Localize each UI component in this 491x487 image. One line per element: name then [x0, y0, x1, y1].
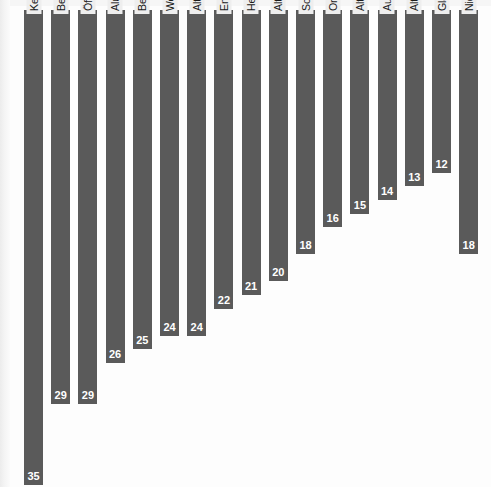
- chart-page: 35Keine Wegwerfflaschen oder Getränkedos…: [0, 0, 491, 487]
- bar-category-label: Energiesparende Haushaltsgeräte anschaff…: [216, 0, 231, 14]
- bar-category-label: Alte Arzneimittel in der Apotheke abgebe…: [189, 0, 204, 14]
- bar-category-label: Öffentliche Verkehrsmittel dem Auto vorz…: [80, 0, 95, 14]
- bar-value-label: 14: [378, 185, 397, 197]
- bar-group: 18Sonderabfälle (z. B. Altöl) zur Deponi…: [296, 0, 315, 487]
- bar-category-label: Altpapier in die Sammlung geben: [407, 0, 422, 14]
- bar: [24, 10, 43, 485]
- bar-group: 22Energiesparende Haushaltsgeräte anscha…: [214, 0, 233, 487]
- bar-group: 24Weniger Strom verbrauchen: [160, 0, 179, 487]
- bar-value-label: 21: [242, 280, 261, 292]
- bar-chart-plot-area: 35Keine Wegwerfflaschen oder Getränkedos…: [0, 0, 491, 487]
- bar: [350, 10, 369, 214]
- bar: [187, 10, 206, 336]
- bar-value-label: 24: [160, 321, 179, 333]
- bar-category-label: Alte Kleider in die Sammlung geben: [352, 0, 367, 14]
- bar-value-label: 18: [459, 239, 478, 251]
- bar-value-label: 15: [350, 199, 369, 211]
- bar: [378, 10, 397, 200]
- bar-value-label: 35: [24, 470, 43, 482]
- bar-category-label: Auto mit Katalysator fahren: [380, 0, 395, 14]
- bar-group: 12Glas zum Container bringen: [432, 0, 451, 487]
- bar-value-label: 12: [432, 158, 451, 170]
- bar-value-label: 24: [187, 321, 206, 333]
- bar-category-label: Keine Wegwerfflaschen oder Getränkedosen…: [26, 0, 41, 14]
- bar-value-label: 29: [51, 389, 70, 401]
- bar: [459, 10, 478, 254]
- bar-category-label: Nichts davon: [461, 0, 476, 14]
- bar-value-label: 22: [214, 294, 233, 306]
- bar: [78, 10, 97, 404]
- bar: [160, 10, 179, 336]
- bar: [133, 10, 152, 349]
- bar: [214, 10, 233, 309]
- bar-group: 29Öffentliche Verkehrsmittel dem Auto vo…: [78, 0, 97, 487]
- bar-group: 26Aluminium getrennt vom Hausmüll sammel…: [106, 0, 125, 487]
- bar-category-label: Beim Einkauf keine Plastiktüten verwende…: [135, 0, 150, 14]
- bar-value-label: 29: [78, 389, 97, 401]
- bar-group: 35Keine Wegwerfflaschen oder Getränkedos…: [24, 0, 43, 487]
- bar: [269, 10, 288, 281]
- bar-group: 15Alte Kleider in die Sammlung geben: [350, 0, 369, 487]
- bar-category-label: Weniger Strom verbrauchen: [162, 0, 177, 14]
- bar-category-label: Glas zum Container bringen: [434, 0, 449, 14]
- bar-group: 21Heizwärme sparen, die Wohnung besser i…: [242, 0, 261, 487]
- bar-category-label: Organische Abfälle kompostieren: [325, 0, 340, 14]
- bar-group: 16Organische Abfälle kompostieren: [323, 0, 342, 487]
- bar: [405, 10, 424, 186]
- bar: [432, 10, 451, 173]
- bar: [51, 10, 70, 404]
- bar: [106, 10, 125, 363]
- bar-value-label: 13: [405, 171, 424, 183]
- bar-group: 14Auto mit Katalysator fahren: [378, 0, 397, 487]
- bar-group: 13Altpapier in die Sammlung geben: [405, 0, 424, 487]
- bar-value-label: 20: [269, 266, 288, 278]
- bar: [296, 10, 315, 254]
- bar-value-label: 18: [296, 239, 315, 251]
- bar: [323, 10, 342, 227]
- bar-category-label: Aluminium getrennt vom Hausmüll sammeln: [108, 0, 123, 14]
- bar-category-label: Sonderabfälle (z. B. Altöl) zur Deponie …: [298, 0, 313, 14]
- bar-group: 29Beim Einkauf auf Artikel mit umweltfre…: [51, 0, 70, 487]
- bar-value-label: 25: [133, 334, 152, 346]
- bar-value-label: 16: [323, 212, 342, 224]
- bar-group: 20Alte Batterien bei den Sammelstellen a…: [269, 0, 288, 487]
- bar-group: 18Nichts davon: [459, 0, 478, 487]
- bar-value-label: 26: [106, 348, 125, 360]
- bar-group: 24Alte Arzneimittel in der Apotheke abge…: [187, 0, 206, 487]
- bar-group: 25Beim Einkauf keine Plastiktüten verwen…: [133, 0, 152, 487]
- bar-category-label: Alte Batterien bei den Sammelstellen abg…: [271, 0, 286, 14]
- bar-category-label: Beim Einkauf auf Artikel mit umweltfreun…: [53, 0, 68, 14]
- bar: [242, 10, 261, 295]
- bar-category-label: Heizwärme sparen, die Wohnung besser iso…: [244, 0, 259, 14]
